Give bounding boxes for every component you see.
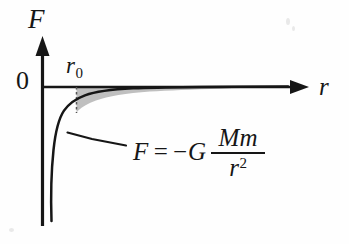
formula-equals-sign: = <box>154 138 168 166</box>
formula-numerator: Mm <box>216 125 261 152</box>
formula-fraction: Mm r2 <box>211 125 265 182</box>
r-zero-symbol: r <box>66 53 75 78</box>
formula-gravitational-constant: G <box>188 138 206 166</box>
right-arrow-icon <box>290 80 309 94</box>
formula-denominator: r2 <box>226 154 250 181</box>
r-zero-label: r0 <box>66 54 83 81</box>
origin-label: 0 <box>16 68 29 94</box>
formula-minus-sign: − <box>173 138 187 166</box>
distance-axis-label: r <box>319 74 329 99</box>
formula-lhs: F <box>133 138 149 166</box>
formula-denominator-base: r <box>229 154 239 181</box>
force-formula: F = − G Mm r2 <box>133 124 265 181</box>
diagram-canvas <box>0 0 349 244</box>
physics-diagram-figure: F 0 r0 r F = − G Mm r2 <box>0 0 349 244</box>
r-zero-subscript: 0 <box>75 65 83 81</box>
formula-denominator-exponent: 2 <box>239 155 247 171</box>
force-axis-label: F <box>28 6 45 33</box>
formula-leader-line <box>68 133 127 146</box>
up-arrow-icon <box>36 36 50 56</box>
